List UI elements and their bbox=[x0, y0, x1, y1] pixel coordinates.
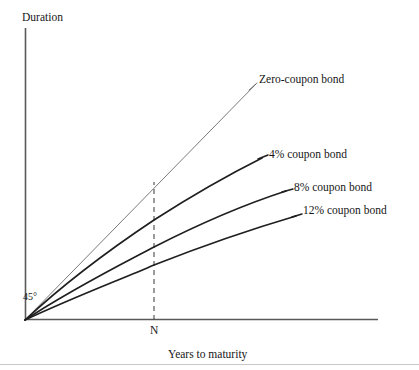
y-axis-title: Duration bbox=[22, 12, 63, 24]
x-axis-tick-label-n: N bbox=[150, 325, 158, 337]
leader-line-4-percent bbox=[258, 155, 268, 159]
origin-angle-annotation: 45° bbox=[23, 292, 37, 302]
series-label-4-percent: 4% coupon bond bbox=[269, 149, 347, 161]
series-label-12-percent: 12% coupon bond bbox=[303, 205, 387, 217]
leader-line-zero-coupon bbox=[249, 83, 257, 90]
series-curve-8-percent bbox=[25, 191, 286, 320]
series-label-zero-coupon: Zero-coupon bond bbox=[259, 74, 344, 86]
series-line-zero-coupon bbox=[25, 84, 256, 320]
leader-line-8-percent bbox=[282, 189, 293, 192]
x-axis-title: Years to maturity bbox=[168, 349, 247, 361]
duration-vs-maturity-figure: Duration Years to maturity N 45° Zero-co… bbox=[0, 0, 419, 370]
series-label-8-percent: 8% coupon bond bbox=[294, 182, 372, 194]
series-curve-12-percent bbox=[25, 216, 296, 320]
leader-line-12-percent bbox=[292, 214, 302, 217]
